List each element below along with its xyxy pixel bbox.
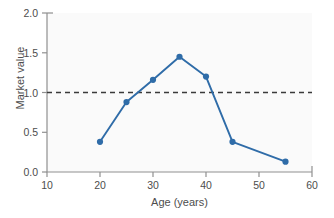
- x-tick-label-2: 30: [140, 180, 166, 191]
- chart-figure: 0.0 0.5 1.0 1.5 2.0 10 20 30 40 50 60 Ma…: [0, 0, 334, 218]
- x-axis-tick-marks: [47, 172, 312, 177]
- y-axis-label: Market value: [14, 30, 26, 126]
- x-tick-label-4: 50: [246, 180, 272, 191]
- data-point: [229, 139, 235, 145]
- x-tick-label-1: 20: [87, 180, 113, 191]
- y-tick-label-0: 0.0: [12, 167, 38, 178]
- y-tick-label-4: 2.0: [12, 8, 38, 19]
- y-axis-tick-marks: [42, 13, 47, 172]
- x-tick-label-0: 10: [34, 180, 60, 191]
- data-point: [282, 159, 288, 165]
- x-axis-label: Age (years): [47, 196, 312, 208]
- x-tick-label-5: 60: [299, 180, 325, 191]
- data-point: [176, 54, 182, 60]
- data-point: [123, 99, 129, 105]
- data-point: [203, 74, 209, 80]
- y-tick-label-1: 0.5: [12, 127, 38, 138]
- data-point: [97, 139, 103, 145]
- x-tick-label-3: 40: [193, 180, 219, 191]
- data-point: [150, 77, 156, 83]
